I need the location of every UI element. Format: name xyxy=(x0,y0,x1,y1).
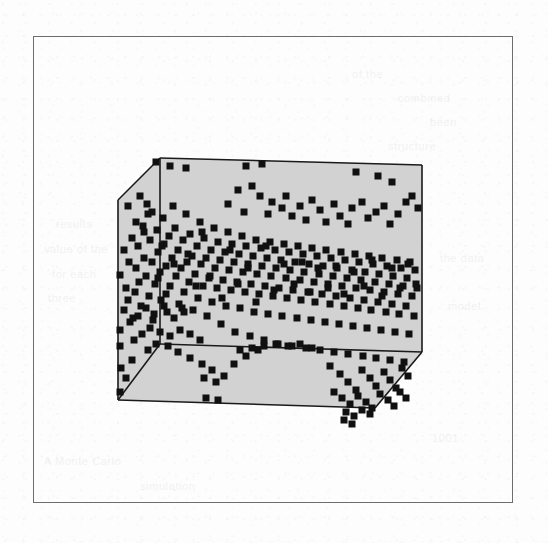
figure-page: of thecombinedbeenstructureresultsvalue … xyxy=(0,0,548,543)
figure-border-frame xyxy=(33,36,513,503)
